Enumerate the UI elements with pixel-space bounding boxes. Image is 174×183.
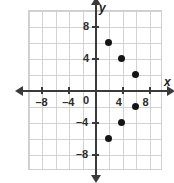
data-point [105, 135, 112, 142]
x-axis-tick-label: –4 [62, 97, 74, 108]
x-axis-tick-label: 4 [116, 97, 122, 108]
data-point [118, 119, 125, 126]
y-axis-tick-label: –4 [76, 117, 88, 128]
data-point [118, 55, 125, 62]
y-axis-tick [92, 154, 99, 156]
y-axis-tick [92, 122, 99, 124]
y-axis-tick [92, 58, 99, 60]
x-axis-label: x [164, 76, 171, 88]
coordinate-plane-graph: –8–44884–4–8 x y 0 [0, 0, 174, 183]
data-point [132, 103, 139, 110]
data-point [132, 71, 139, 78]
y-axis-tick [92, 26, 99, 28]
x-axis-tick-label: –8 [35, 97, 47, 108]
y-axis-tick-label: –8 [76, 149, 88, 160]
x-axis-tick-label: 8 [143, 97, 149, 108]
data-point [105, 39, 112, 46]
x-axis-tick [149, 87, 151, 94]
x-axis-tick [122, 87, 124, 94]
origin-tick-label: 0 [83, 95, 89, 106]
x-axis-tick [68, 87, 70, 94]
x-axis-tick [41, 87, 43, 94]
y-axis-label: y [99, 2, 106, 14]
x-axis-arrow-left-icon [15, 86, 23, 96]
y-axis-line [95, 5, 97, 175]
y-axis-arrow-down-icon [91, 175, 101, 183]
y-axis-tick-label: 8 [83, 21, 89, 32]
y-axis-tick-label: 4 [83, 53, 89, 64]
